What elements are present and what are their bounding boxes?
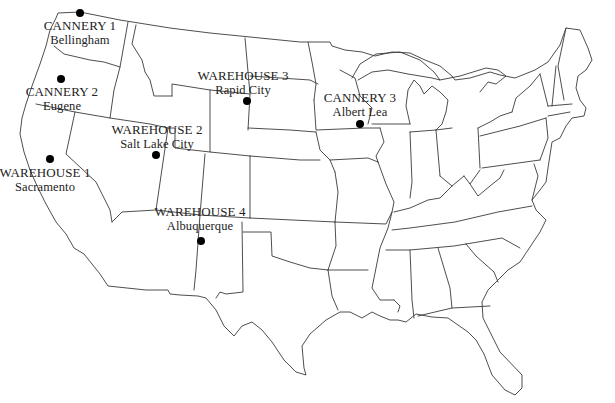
warehouse-3-label: WAREHOUSE 3 Rapid City <box>197 69 288 97</box>
site-name: WAREHOUSE 4 <box>154 205 245 219</box>
cannery-3-label: CANNERY 3 Albert Lea <box>324 91 396 119</box>
warehouse-2-label: WAREHOUSE 2 Salt Lake City <box>111 123 202 151</box>
site-city: Albuquerque <box>154 219 245 233</box>
us-outline <box>20 12 592 395</box>
site-city: Bellingham <box>44 33 116 47</box>
cannery-1-marker-icon <box>76 9 84 17</box>
site-name: WAREHOUSE 1 <box>0 166 91 180</box>
cannery-1-label: CANNERY 1 Bellingham <box>44 19 116 47</box>
warehouse-1-label: WAREHOUSE 1 Sacramento <box>0 166 91 194</box>
us-map: CANNERY 1 Bellingham CANNERY 2 Eugene CA… <box>0 0 615 403</box>
site-city: Sacramento <box>0 180 91 194</box>
warehouse-4-label: WAREHOUSE 4 Albuquerque <box>154 205 245 233</box>
site-name: WAREHOUSE 2 <box>111 123 202 137</box>
cannery-3-marker-icon <box>356 120 364 128</box>
site-name: WAREHOUSE 3 <box>197 69 288 83</box>
site-city: Salt Lake City <box>111 137 202 151</box>
warehouse-1-marker-icon <box>46 155 54 163</box>
us-states-outline <box>0 0 615 403</box>
site-name: CANNERY 3 <box>324 91 396 105</box>
site-city: Eugene <box>26 99 98 113</box>
site-city: Albert Lea <box>324 105 396 119</box>
cannery-2-label: CANNERY 2 Eugene <box>26 85 98 113</box>
warehouse-4-marker-icon <box>197 237 205 245</box>
site-city: Rapid City <box>197 83 288 97</box>
site-name: CANNERY 2 <box>26 85 98 99</box>
warehouse-3-marker-icon <box>243 97 251 105</box>
warehouse-2-marker-icon <box>152 151 160 159</box>
cannery-2-marker-icon <box>57 75 65 83</box>
site-name: CANNERY 1 <box>44 19 116 33</box>
